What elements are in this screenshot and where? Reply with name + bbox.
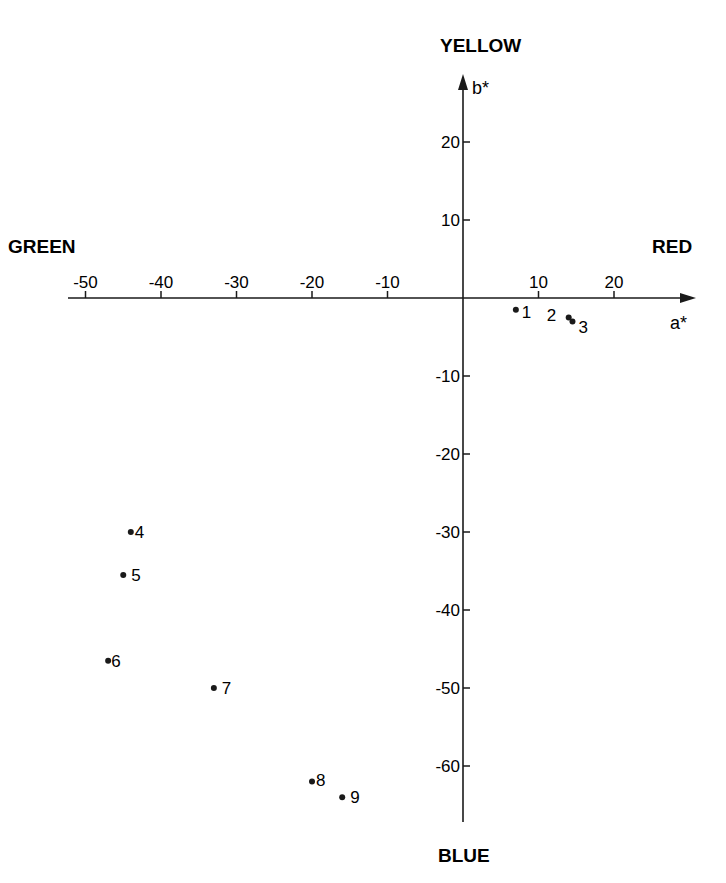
data-point-label-8: 8: [316, 771, 325, 790]
axes: [68, 86, 682, 822]
data-point-5: [120, 572, 126, 578]
data-point-label-2: 2: [547, 306, 556, 325]
x-tick-label: -50: [73, 273, 98, 292]
x-tick-label: -30: [224, 273, 249, 292]
data-point-label-7: 7: [222, 679, 231, 698]
data-point-label-9: 9: [350, 788, 359, 807]
data-point-label-4: 4: [135, 523, 144, 542]
cielab-ab-scatter-chart: -50-40-30-20-101020 2010-10-20-30-40-50-…: [0, 0, 726, 883]
x-tick-label: -40: [149, 273, 174, 292]
data-point-7: [211, 685, 217, 691]
data-point-label-5: 5: [131, 566, 140, 585]
data-point-4: [128, 529, 134, 535]
y-tick-label: 10: [441, 211, 460, 230]
x-ticks: -50-40-30-20-101020: [73, 273, 623, 298]
x-tick-label: -20: [300, 273, 325, 292]
data-point-1: [513, 307, 519, 313]
y-tick-label: -10: [435, 367, 460, 386]
green-label: GREEN: [8, 236, 76, 257]
data-point-label-3: 3: [578, 318, 587, 337]
x-axis-label: a*: [670, 313, 687, 333]
y-tick-label: -30: [435, 523, 460, 542]
y-axis-label: b*: [472, 78, 489, 98]
x-axis-arrow-icon: [680, 293, 696, 303]
y-tick-label: -50: [435, 679, 460, 698]
data-point-9: [339, 794, 345, 800]
blue-label: BLUE: [438, 845, 490, 866]
data-point-3: [569, 318, 575, 324]
y-ticks: 2010-10-20-30-40-50-60: [435, 133, 470, 776]
y-tick-label: -40: [435, 601, 460, 620]
y-tick-label: -20: [435, 445, 460, 464]
data-point-label-1: 1: [522, 303, 531, 322]
data-point-8: [309, 779, 315, 785]
y-tick-label: 20: [441, 133, 460, 152]
x-tick-label: 20: [605, 273, 624, 292]
data-point-label-6: 6: [111, 652, 120, 671]
y-tick-label: -60: [435, 757, 460, 776]
x-tick-label: 10: [529, 273, 548, 292]
data-points: 123456789: [105, 303, 588, 808]
y-axis-arrow-icon: [458, 74, 468, 90]
red-label: RED: [652, 236, 692, 257]
x-tick-label: -10: [375, 273, 400, 292]
yellow-label: YELLOW: [440, 35, 521, 56]
